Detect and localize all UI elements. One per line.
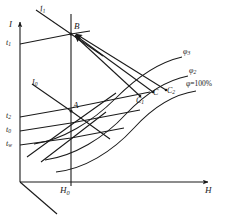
isotherm-t2 — [20, 92, 150, 117]
curve-phi-2-subscript: 2 — [193, 69, 196, 75]
x-origin-tick-subscript: 0 — [67, 189, 70, 196]
y-tick-label-tw: tw — [6, 140, 12, 149]
isenthalp-I1-subscript: 1 — [43, 7, 46, 13]
y-tick-label-t1: t1 — [6, 39, 11, 48]
y-tick-t2-subscript: 2 — [8, 114, 11, 120]
process-arrow-B-C2 — [76, 34, 166, 90]
y-tick-tw-subscript: w — [8, 142, 12, 148]
curve-label-phi-2: φ2 — [189, 67, 196, 76]
chart-drawing-canvas — [0, 0, 231, 218]
point-label-C1: C1 — [136, 97, 144, 106]
x-origin-tick-label: H0 — [60, 186, 70, 196]
point-C1-subscript: 1 — [141, 99, 144, 105]
point-label-A: A — [73, 101, 79, 110]
curve-phi-3-subscript: 3 — [187, 50, 190, 56]
process-arrow-group — [75, 34, 166, 96]
y-tick-t1-subscript: 1 — [8, 41, 11, 47]
point-label-C: C — [153, 89, 158, 97]
point-marker-B — [70, 33, 73, 36]
curve-label-phi-3: φ3 — [183, 48, 190, 57]
curve-label-phi-100: φ=100% — [186, 80, 212, 88]
process-arrow-B-C1 — [75, 36, 140, 96]
origin-diagonal-tick — [20, 182, 57, 214]
isenthalp-label-I1: I1 — [40, 5, 46, 14]
process-arrow-B-C — [75, 35, 153, 92]
y-tick-label-t2: t2 — [6, 112, 11, 121]
y-axis-label: I — [9, 20, 12, 29]
isenthalp-I1 — [36, 10, 103, 56]
point-label-C2: C2 — [167, 87, 175, 96]
point-label-B: B — [74, 22, 80, 31]
y-tick-label-t0: t0 — [6, 126, 11, 135]
x-axis-label: H — [205, 186, 212, 195]
isenthalp-I0-subscript: 0 — [35, 81, 38, 87]
point-C2-subscript: 2 — [172, 89, 175, 95]
y-tick-t0-subscript: 0 — [8, 128, 11, 134]
isenthalp-lower-2 — [41, 112, 106, 162]
isotherm-t1 — [20, 31, 90, 44]
axis-group — [20, 22, 208, 214]
psychrometric-chart-figure: I H H0 t1 t2 t0 tw I1 I0 B A C1 C C2 φ3 … — [0, 0, 231, 218]
isenthalp-label-I0: I0 — [32, 79, 37, 88]
